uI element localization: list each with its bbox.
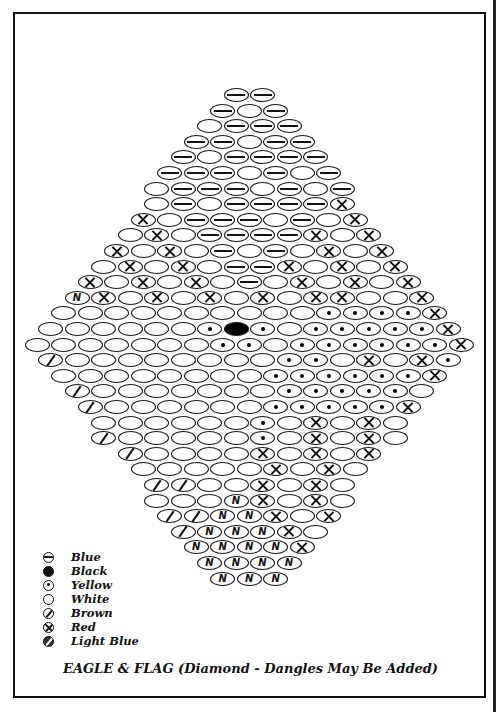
bead-yellow [396, 369, 421, 383]
bead-blue [277, 182, 302, 196]
legend-item-red: Red [40, 620, 139, 634]
bead-red [290, 275, 315, 289]
bead-red [250, 494, 275, 508]
bead-red [171, 260, 196, 274]
bead-red [197, 291, 222, 305]
color-legend: BlueBlackYellowWhiteBrownRedLight Blue [40, 550, 139, 648]
legend-label: Red [71, 620, 96, 634]
bead-white [263, 275, 288, 289]
bead-blue [250, 119, 275, 133]
bead-yellow [343, 400, 368, 414]
legend-item-white: White [40, 592, 139, 606]
bead-white [65, 322, 90, 336]
bead-red [303, 228, 328, 242]
bead-blue [277, 197, 302, 211]
bead-red [184, 275, 209, 289]
bead-red [303, 431, 328, 445]
bead-white [277, 494, 302, 508]
bead-white [330, 447, 355, 461]
bead-white [197, 478, 222, 492]
bead-yellow [316, 400, 341, 414]
bead-yellow [250, 416, 275, 430]
bead-brown [144, 478, 169, 492]
bead-white [383, 416, 408, 430]
bead-light-blue: N [263, 572, 288, 586]
bead-white [184, 244, 209, 258]
legend-label: Light Blue [71, 634, 139, 648]
bead-white [171, 494, 196, 508]
bead-blue [210, 135, 235, 149]
bead-white [197, 384, 222, 398]
bead-blue [157, 166, 182, 180]
bead-diamond-pattern: NNNNNNNNNNNNNNNNNN [0, 0, 501, 600]
bead-white [51, 338, 76, 352]
bead-white [290, 462, 315, 476]
bead-red [263, 509, 288, 523]
bead-yellow [356, 384, 381, 398]
bead-yellow [383, 322, 408, 336]
bead-white [197, 260, 222, 274]
bead-blue [250, 88, 275, 102]
bead-white [303, 525, 328, 539]
bead-red [131, 213, 156, 227]
bead-white [290, 509, 315, 523]
bead-white [197, 494, 222, 508]
bead-light-blue: N [210, 540, 235, 554]
bead-blue [263, 104, 288, 118]
bead-blue [224, 228, 249, 242]
bead-blue [197, 228, 222, 242]
bead-yellow [316, 306, 341, 320]
bead-white [224, 384, 249, 398]
bead-white [237, 462, 262, 476]
bead-yellow [436, 353, 461, 367]
bead-red [290, 540, 315, 554]
bead-blue [250, 197, 275, 211]
bead-white [316, 213, 341, 227]
bead-white [263, 338, 288, 352]
bead-white [118, 228, 143, 242]
bead-blue [263, 135, 288, 149]
bead-red [330, 291, 355, 305]
bead-white [383, 431, 408, 445]
bead-red [396, 275, 421, 289]
bead-white [78, 338, 103, 352]
bead-white [224, 291, 249, 305]
bead-yellow [237, 338, 262, 352]
bead-blue [184, 166, 209, 180]
bead-light-blue: N [237, 540, 262, 554]
bead-yellow [303, 353, 328, 367]
bead-white [51, 306, 76, 320]
bead-white [118, 384, 143, 398]
bead-white [237, 369, 262, 383]
bead-white [277, 478, 302, 492]
bead-white [237, 306, 262, 320]
bead-white [250, 182, 275, 196]
bead-white [343, 462, 368, 476]
bead-blue [224, 182, 249, 196]
bead-white [277, 447, 302, 461]
bead-white [210, 275, 235, 289]
bead-brown [171, 525, 196, 539]
bead-white [277, 322, 302, 336]
bead-white [65, 353, 90, 367]
bead-white [131, 462, 156, 476]
bead-white [144, 322, 169, 336]
bead-red [422, 306, 447, 320]
bead-white [104, 306, 129, 320]
bead-white [224, 478, 249, 492]
bead-red [409, 353, 434, 367]
bead-white [144, 197, 169, 211]
bead-white [131, 338, 156, 352]
bead-white [197, 416, 222, 430]
bead-light-blue: N [197, 556, 222, 570]
bead-white [197, 150, 222, 164]
circle-slash-icon [43, 608, 54, 619]
bead-white [25, 338, 50, 352]
bead-white [144, 431, 169, 445]
bead-brown [118, 447, 143, 461]
bead-red [131, 275, 156, 289]
bead-white [184, 338, 209, 352]
bead-brown [78, 400, 103, 414]
legend-label: Black [71, 564, 108, 578]
bead-blue [237, 275, 262, 289]
